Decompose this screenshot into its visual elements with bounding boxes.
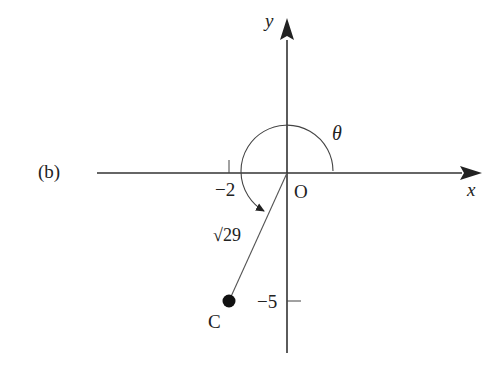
y-axis-label: y — [265, 11, 273, 30]
y-axis-arrow-icon — [280, 18, 294, 40]
point-c-label: C — [208, 312, 221, 331]
x-axis-label: x — [467, 180, 475, 199]
x-axis-arrow-icon — [460, 166, 482, 180]
x-axis — [97, 166, 482, 180]
part-label: (b) — [38, 162, 60, 181]
diagram-canvas — [0, 0, 500, 368]
x-tick-label: −2 — [215, 180, 235, 199]
point-c — [223, 295, 236, 308]
theta-label: θ — [332, 123, 342, 143]
origin-label: O — [294, 182, 308, 201]
y-tick-label: −5 — [257, 292, 277, 311]
length-label: √29 — [213, 226, 241, 244]
y-axis — [280, 18, 294, 353]
